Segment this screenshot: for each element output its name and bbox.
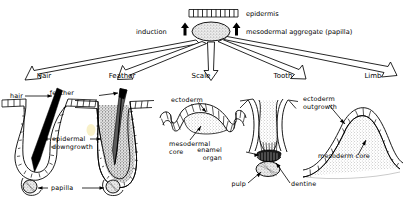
hair-label: hair — [10, 92, 23, 100]
induction-label: induction — [136, 28, 167, 36]
limb-ectoderm-label-line1: ectoderm — [303, 95, 335, 103]
epidermal-downgrowth-label-line2: downgrowth — [52, 143, 93, 151]
organ-label-hair: Hair — [37, 72, 51, 80]
diagram-text-layer: epidermis induction mesodermal aggregate… — [0, 0, 405, 209]
diagram-canvas: epidermis induction mesodermal aggregate… — [0, 0, 405, 209]
scale-mesodermal-core-label-line2: core — [169, 148, 183, 156]
dentine-label: dentine — [291, 180, 316, 188]
organ-label-scale: Scale — [192, 72, 211, 80]
scale-ectoderm-label: ectoderm — [171, 96, 203, 104]
pulp-label: pulp — [231, 180, 246, 188]
mesodermal-aggregate-label: mesodermal aggregate (papilla) — [246, 28, 352, 36]
epidermal-downgrowth-label-line1: epidermal — [52, 135, 86, 143]
organ-label-tooth: Tooth — [273, 72, 293, 80]
limb-ectoderm-label-line2: outgrowth — [303, 103, 337, 111]
enamel-organ-label-line1: enamel — [197, 146, 222, 154]
feather-label: feather — [50, 89, 74, 97]
papilla-label: papilla — [51, 184, 73, 192]
organ-label-limb: Limb — [364, 72, 382, 80]
organ-label-feather: Feather — [109, 72, 136, 80]
limb-mesoderm-core-label: mesoderm core — [318, 152, 370, 160]
epidermis-label: epidermis — [246, 10, 279, 18]
enamel-organ-label-line2: organ — [203, 154, 222, 162]
